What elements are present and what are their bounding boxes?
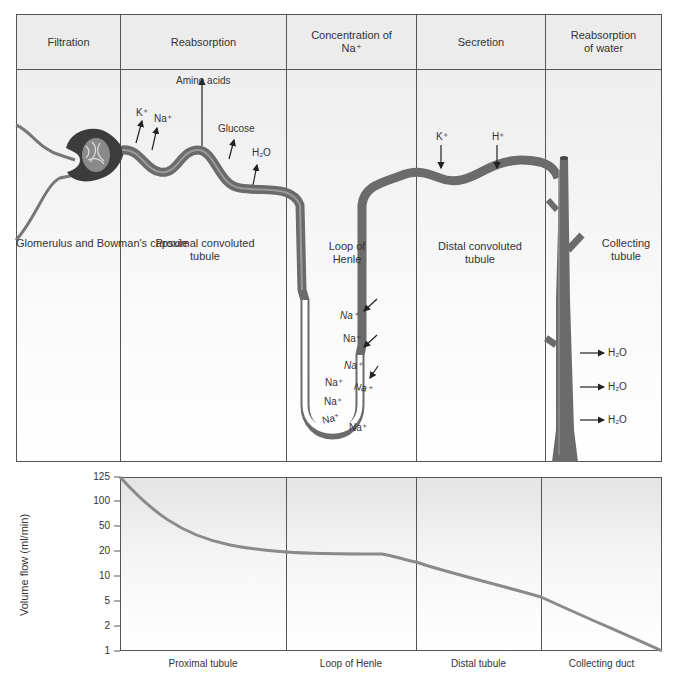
x-category-distal: Distal tubule <box>416 658 541 669</box>
y-tick-label: 125 <box>80 471 110 482</box>
y-tick-label: 50 <box>80 520 110 531</box>
y-tick-label: 1 <box>80 645 110 656</box>
y-tick-label: 100 <box>80 495 110 506</box>
y-axis-label: Volume flow (ml/min) <box>18 514 30 616</box>
x-category-collecting: Collecting duct <box>541 658 662 669</box>
y-tick-label: 10 <box>80 570 110 581</box>
x-category-proximal: Proximal tubule <box>120 658 286 669</box>
x-category-loop: Loop of Henle <box>286 658 416 669</box>
y-tick-label: 2 <box>80 620 110 631</box>
y-tick-label: 20 <box>80 545 110 556</box>
y-tick-label: 5 <box>80 595 110 606</box>
